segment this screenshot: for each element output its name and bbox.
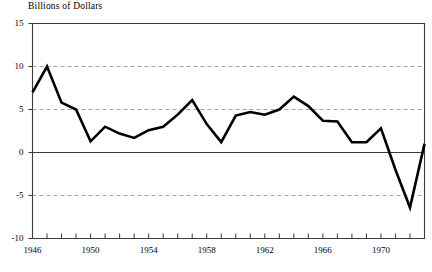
line-chart-plot bbox=[0, 0, 432, 272]
chart-container: Billions of Dollars 151050-5-10 19461950… bbox=[0, 0, 432, 272]
y-tick-label-10: 10 bbox=[0, 61, 24, 71]
y-tick-label-5: 5 bbox=[0, 104, 24, 114]
y-tick-label-15: 15 bbox=[0, 18, 24, 28]
x-tick-label-1950: 1950 bbox=[71, 245, 111, 255]
x-tick-label-1962: 1962 bbox=[245, 245, 285, 255]
x-tick-label-1970: 1970 bbox=[361, 245, 401, 255]
x-tick-label-1946: 1946 bbox=[13, 245, 53, 255]
x-tick-label-1954: 1954 bbox=[129, 245, 169, 255]
x-tick-label-1966: 1966 bbox=[303, 245, 343, 255]
y-tick-label--10: -10 bbox=[0, 233, 24, 243]
y-tick-label--5: -5 bbox=[0, 190, 24, 200]
data-series-line bbox=[33, 67, 425, 208]
y-tick-label-0: 0 bbox=[0, 147, 24, 157]
x-tick-label-1958: 1958 bbox=[187, 245, 227, 255]
